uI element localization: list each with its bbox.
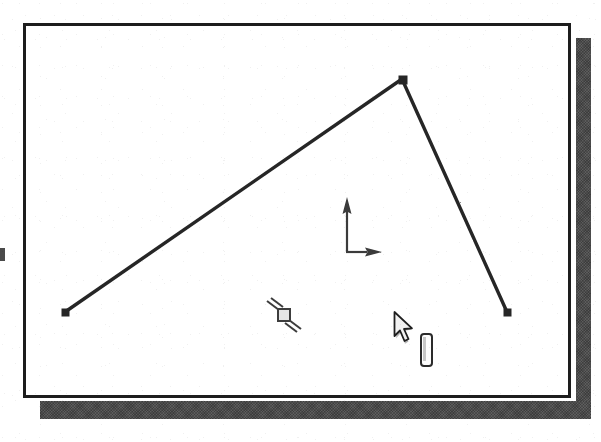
geometry-layer — [26, 26, 568, 395]
sketch-canvas[interactable] — [26, 26, 568, 395]
edge-right[interactable] — [402, 79, 507, 312]
window-shadow-right — [576, 38, 591, 419]
application-window[interactable] — [23, 23, 571, 398]
vertex-apex[interactable] — [399, 76, 408, 85]
vertex-left[interactable] — [62, 309, 70, 317]
mouse-pointer-icon — [393, 311, 414, 342]
scan-artifact — [0, 248, 5, 261]
screenshot-root — [0, 0, 601, 442]
window-shadow-bottom — [40, 401, 591, 419]
tooltip-pill[interactable] — [420, 333, 433, 367]
snap-constraint-marker[interactable] — [267, 298, 301, 332]
edge-hypotenuse[interactable] — [65, 79, 402, 312]
coordinate-axis-icon — [343, 197, 383, 257]
vertex-right[interactable] — [504, 309, 512, 317]
